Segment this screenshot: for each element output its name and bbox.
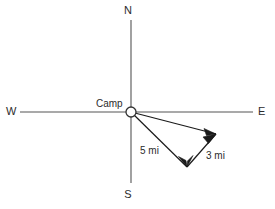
camp-origin-label: Camp bbox=[96, 98, 123, 109]
compass-label-south: S bbox=[124, 188, 131, 200]
compass-label-east: E bbox=[258, 105, 265, 117]
diagram-svg: N S W E Camp 5 mi 3 mi bbox=[0, 0, 275, 209]
leg-one-vector-line bbox=[131, 112, 187, 167]
leg-one-vector-arrowhead bbox=[179, 157, 188, 168]
compass-label-north: N bbox=[124, 4, 132, 16]
leg-one-magnitude-label: 5 mi bbox=[140, 145, 159, 156]
leg-two-magnitude-label: 3 mi bbox=[206, 150, 225, 161]
compass-label-west: W bbox=[6, 105, 17, 117]
vector-diagram-canvas: N S W E Camp 5 mi 3 mi bbox=[0, 0, 275, 209]
camp-origin-marker bbox=[126, 107, 136, 117]
leg-two-vector-arrowhead bbox=[203, 134, 216, 144]
resultant-vector-line bbox=[131, 112, 216, 134]
